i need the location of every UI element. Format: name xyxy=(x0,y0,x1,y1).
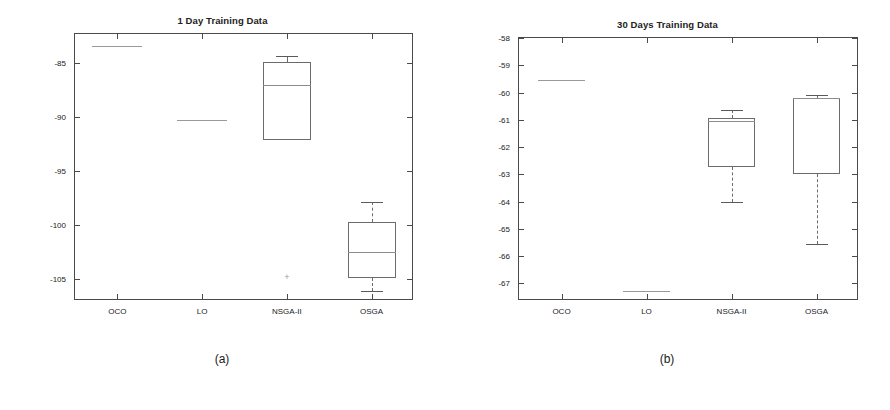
y-tick-right xyxy=(852,202,857,203)
box-nsga-ii xyxy=(263,62,311,140)
x-tick xyxy=(372,294,373,299)
y-tick xyxy=(519,38,524,39)
box-osga xyxy=(348,222,396,278)
x-tick-top xyxy=(647,38,648,43)
x-tick xyxy=(117,294,118,299)
chart-panel-b: 30 Days Training Data Balance [€] -58-59… xyxy=(445,0,890,340)
y-tick-right xyxy=(407,279,412,280)
x-tick xyxy=(732,294,733,299)
y-tick-label: -63 xyxy=(498,170,510,179)
y-tick-right xyxy=(852,65,857,66)
y-tick xyxy=(75,63,80,64)
subfigure-caption-b: (b) xyxy=(637,352,697,366)
x-tick-top xyxy=(817,38,818,43)
y-tick-right xyxy=(852,283,857,284)
y-tick xyxy=(519,120,524,121)
box-osga xyxy=(793,98,840,174)
y-tick-right xyxy=(852,147,857,148)
x-tick xyxy=(202,294,203,299)
y-tick-label: -85 xyxy=(54,59,66,68)
box-nsga-ii-lower-whisker xyxy=(732,167,733,201)
x-tick-label-oco: OCO xyxy=(552,307,570,316)
box-lo-median-line xyxy=(623,291,670,292)
box-nsga-ii-upper-whisker xyxy=(732,110,733,118)
y-tick xyxy=(75,279,80,280)
box-oco-median-line xyxy=(538,80,585,81)
y-tick xyxy=(519,283,524,284)
y-tick xyxy=(519,256,524,257)
x-tick-top xyxy=(287,34,288,39)
x-tick-label-osga: OSGA xyxy=(805,307,828,316)
box-nsga-ii-lower-cap xyxy=(721,202,743,203)
y-tick-right xyxy=(852,120,857,121)
x-tick-label-nsga-ii: NSGA-II xyxy=(717,307,747,316)
y-tick xyxy=(75,171,80,172)
box-osga-median xyxy=(348,252,396,253)
box-oco-median-line xyxy=(92,46,142,47)
x-tick-label-nsga-ii: NSGA-II xyxy=(272,307,302,316)
box-nsga-ii xyxy=(708,118,755,167)
chart-title-b: 30 Days Training Data xyxy=(445,19,890,30)
y-tick-label: -61 xyxy=(498,115,510,124)
y-tick-label: -105 xyxy=(50,275,66,284)
chart-title-a: 1 Day Training Data xyxy=(0,15,445,26)
box-osga-lower-whisker xyxy=(372,278,373,291)
box-lo-median-line xyxy=(177,120,227,121)
plot-area-b: -58-59-60-61-62-63-64-65-66-67OCOLONSGA-… xyxy=(518,37,858,300)
boxplot-figure: 1 Day Training Data Balance [€] -85-90-9… xyxy=(0,0,890,410)
x-tick xyxy=(817,294,818,299)
y-tick-right xyxy=(407,225,412,226)
y-tick-label: -95 xyxy=(54,167,66,176)
y-tick-label: -100 xyxy=(50,221,66,230)
x-tick-label-lo: LO xyxy=(641,307,652,316)
box-osga-upper-whisker xyxy=(372,202,373,223)
y-tick-right xyxy=(407,171,412,172)
x-tick-top xyxy=(562,38,563,43)
y-tick-right xyxy=(852,174,857,175)
box-nsga-ii-outlier: + xyxy=(284,273,289,282)
y-tick xyxy=(519,147,524,148)
x-tick-label-lo: LO xyxy=(197,307,208,316)
x-tick xyxy=(287,294,288,299)
box-osga-lower-cap xyxy=(361,291,383,292)
y-tick xyxy=(519,93,524,94)
y-tick-label: -66 xyxy=(498,252,510,261)
y-tick xyxy=(75,117,80,118)
box-osga-upper-cap xyxy=(361,202,383,203)
y-tick xyxy=(519,202,524,203)
box-nsga-ii-median xyxy=(263,85,311,86)
plot-area-a: -85-90-95-100-105OCOLONSGA-IIOSGA+ xyxy=(74,33,413,300)
x-tick-label-osga: OSGA xyxy=(360,307,383,316)
y-tick-right xyxy=(852,256,857,257)
box-nsga-ii-upper-cap xyxy=(721,110,743,111)
y-tick-label: -67 xyxy=(498,279,510,288)
x-tick xyxy=(562,294,563,299)
y-tick-label: -65 xyxy=(498,224,510,233)
y-tick-label: -59 xyxy=(498,61,510,70)
x-tick-top xyxy=(372,34,373,39)
y-tick-right xyxy=(852,229,857,230)
y-tick xyxy=(75,225,80,226)
y-tick-label: -62 xyxy=(498,143,510,152)
y-tick xyxy=(519,174,524,175)
box-osga-lower-cap xyxy=(806,244,828,245)
y-tick-right xyxy=(852,93,857,94)
y-tick-label: -58 xyxy=(498,34,510,43)
x-tick xyxy=(647,294,648,299)
subfigure-caption-a: (a) xyxy=(192,352,252,366)
box-osga-upper-cap xyxy=(806,95,828,96)
y-tick xyxy=(519,65,524,66)
y-tick-label: -90 xyxy=(54,113,66,122)
x-tick-top xyxy=(117,34,118,39)
box-osga-median xyxy=(793,98,840,99)
box-nsga-ii-upper-cap xyxy=(276,56,298,57)
y-tick-right xyxy=(852,38,857,39)
x-tick-top xyxy=(732,38,733,43)
y-tick-label: -64 xyxy=(498,197,510,206)
y-tick-label: -60 xyxy=(498,88,510,97)
box-osga-lower-whisker xyxy=(817,174,818,243)
box-nsga-ii-median xyxy=(708,121,755,122)
y-tick xyxy=(519,229,524,230)
y-tick-right xyxy=(407,63,412,64)
x-tick-top xyxy=(202,34,203,39)
